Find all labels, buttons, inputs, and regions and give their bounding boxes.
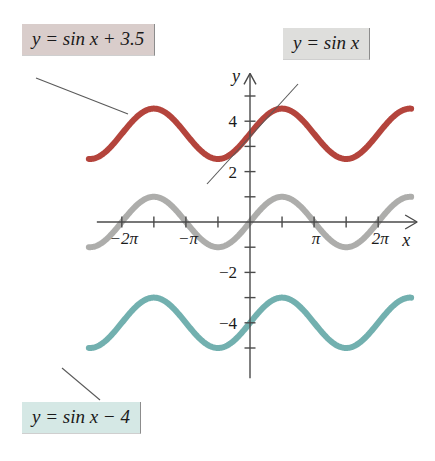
callout-sin-plus-3-5-label: y = sin x + 3.5 (32, 28, 144, 49)
y-tick-label-3: 2 (229, 163, 238, 182)
callout-sin-minus-4-label: y = sin x − 4 (32, 406, 130, 427)
callout-sin-minus-4: y = sin x − 4 (22, 402, 141, 434)
y-axis-label: y (230, 66, 240, 86)
y-tick-label-8: −4 (219, 314, 238, 333)
x-tick-label-7: 2π (372, 229, 390, 248)
y-tick-label-1: 4 (229, 112, 238, 131)
x-axis-label: x (401, 230, 410, 250)
callout-sin-plus-3-5: y = sin x + 3.5 (22, 24, 155, 56)
x-tick-label-2: −π (178, 229, 198, 248)
x-tick-label-5: π (312, 229, 321, 248)
leader-line-sin (207, 84, 298, 184)
y-tick-label-6: −2 (219, 263, 237, 282)
leader-line-sin-plus-3-5 (36, 78, 128, 114)
callout-sin: y = sin x (283, 28, 370, 60)
sine-shift-plot: −2π−ππ2π42−2−4xy (0, 0, 435, 461)
leader-line-sin-minus-4 (62, 368, 100, 400)
callout-sin-label: y = sin x (293, 32, 359, 53)
figure-canvas: −2π−ππ2π42−2−4xy y = sin x + 3.5 y = sin… (0, 0, 435, 461)
x-tick-label-0: −2π (110, 229, 139, 248)
